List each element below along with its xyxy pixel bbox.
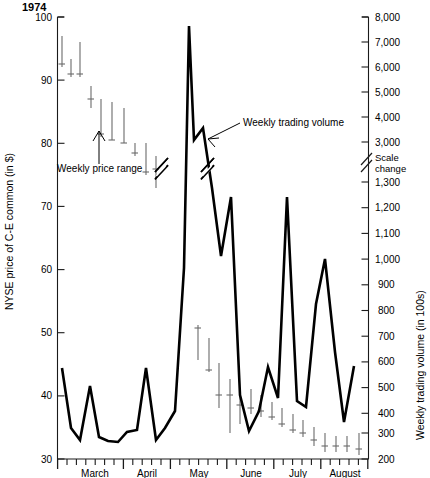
annotation-weekly-trading-volume: Weekly trading volume (243, 117, 344, 128)
price-range-bar (143, 143, 150, 175)
price-range-bar (227, 379, 234, 433)
left-tick-label: 90 (41, 75, 53, 86)
price-range-bar (121, 108, 128, 143)
annotation-weekly-price-range: Weekly price range (57, 163, 143, 174)
x-tick-label-june: June (240, 468, 262, 478)
scale-change-label-line1: Scale (375, 152, 399, 163)
right-tick-label: 900 (378, 279, 395, 290)
chart-figure: 1974 100 90 80 70 (0, 0, 430, 478)
right-tick-label: 300 (378, 428, 395, 439)
right-axis-tick-labels: 8,000 7,000 6,000 5,000 4,000 3,000 Scal… (375, 12, 406, 465)
price-range-bar (88, 86, 95, 108)
right-tick-label: 400 (378, 408, 395, 419)
x-tick-label-april: April (137, 468, 157, 478)
price-range-bar (248, 389, 255, 414)
price-range-bar (59, 36, 66, 67)
left-tick-label: 50 (41, 327, 53, 338)
right-tick-label: 8,000 (375, 12, 400, 23)
x-tick-label-august: August (329, 468, 360, 478)
right-tick-label: 1,100 (375, 228, 400, 239)
right-tick-label: 7,000 (375, 37, 400, 48)
price-range-bar (77, 42, 84, 77)
right-tick-label: 3,000 (375, 137, 400, 148)
price-range-bar (195, 325, 202, 360)
right-axis-ticks (362, 17, 369, 459)
right-tick-label: 5,000 (375, 87, 400, 98)
left-tick-label: 60 (41, 264, 53, 275)
right-tick-label: 4,000 (375, 112, 400, 123)
x-tick-label-may: May (190, 468, 209, 478)
left-tick-label: 40 (41, 390, 53, 401)
price-range-bar (333, 436, 340, 452)
right-tick-label: 1,300 (375, 177, 400, 188)
right-tick-label: 6,000 (375, 62, 400, 73)
right-tick-label: 1,200 (375, 202, 400, 213)
financial-chart-svg: 1974 100 90 80 70 (0, 0, 430, 478)
x-tick-label-march: March (81, 468, 109, 478)
right-tick-label: 700 (378, 331, 395, 342)
price-range-bar (68, 59, 75, 77)
x-tick-label-july: July (289, 468, 307, 478)
x-axis-minor-ticks (67, 459, 358, 465)
right-axis-scale-break-glyph (361, 153, 372, 172)
price-range-bar (279, 408, 286, 427)
left-axis-title: NYSE price of C-E common (in $) (3, 153, 15, 310)
scale-change-label-line2: change (375, 163, 406, 174)
left-axis-tick-labels: 100 90 80 70 60 50 40 30 (35, 12, 52, 465)
price-range-bar (206, 338, 213, 372)
left-tick-label: 80 (41, 138, 53, 149)
left-axis-ticks (58, 17, 65, 459)
annotation-trading-volume-arrow (208, 123, 240, 147)
price-range-bar (269, 402, 276, 420)
left-tick-label: 70 (41, 201, 53, 212)
right-tick-label: 500 (378, 382, 395, 393)
annotation-price-range-arrow (93, 131, 105, 164)
price-range-bar (290, 414, 297, 433)
right-tick-label: 800 (378, 305, 395, 316)
left-tick-label: 100 (35, 12, 52, 23)
x-axis-month-labels: March April May June July August (81, 468, 361, 478)
price-range-bar (322, 433, 329, 452)
price-range-bar (311, 427, 318, 446)
right-axis-title: Weekly trading volume (in 100s) (414, 290, 426, 440)
price-range-bar (109, 102, 116, 140)
price-range-bar (216, 363, 223, 408)
weekly-price-range-bars (59, 36, 363, 455)
weekly-trading-volume-line (62, 26, 354, 442)
price-range-bar (356, 433, 363, 455)
price-range-bar (344, 436, 351, 452)
right-tick-label: 200 (378, 454, 395, 465)
price-range-bar (132, 143, 139, 156)
price-range-bar (300, 420, 307, 437)
plot-frame (58, 17, 369, 459)
left-tick-label: 30 (41, 454, 53, 465)
right-tick-label: 1,000 (375, 254, 400, 265)
right-tick-label: 600 (378, 356, 395, 367)
